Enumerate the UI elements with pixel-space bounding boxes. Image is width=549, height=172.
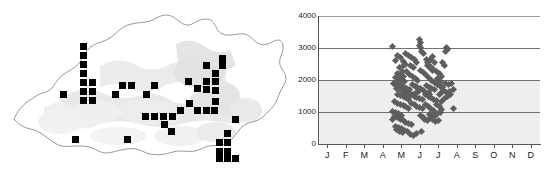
y-tick-label: 2000 [290, 76, 316, 84]
scatter-datapoint [441, 62, 448, 69]
plot-area [318, 16, 540, 144]
y-tick-label: 1000 [290, 108, 316, 116]
map-record-marker [161, 121, 168, 128]
map-record-marker [119, 82, 126, 89]
x-tick [383, 144, 384, 148]
map-record-marker [186, 100, 193, 107]
x-tick-label: M [394, 150, 408, 160]
map-record-marker [168, 128, 175, 135]
map-outline-svg [0, 0, 290, 172]
map-record-marker [212, 70, 219, 77]
x-tick-label: D [524, 150, 538, 160]
x-tick-label: J [320, 150, 334, 160]
x-tick [457, 144, 458, 148]
map-record-marker [80, 52, 87, 59]
y-tick-label: 3000 [290, 44, 316, 52]
x-tick [438, 144, 439, 148]
map-record-marker [160, 113, 167, 120]
x-tick-label: J [431, 150, 445, 160]
map-record-marker [212, 98, 219, 105]
distribution-map-panel [0, 0, 290, 172]
map-record-marker [212, 87, 219, 94]
map-record-marker [143, 91, 150, 98]
altitude-month-scatter-panel: 01000200030004000 JFMAMJJASOND [290, 0, 549, 172]
map-record-marker [89, 97, 96, 104]
y-axis-tick-labels: 01000200030004000 [290, 0, 316, 172]
figure-container: 01000200030004000 JFMAMJJASOND [0, 0, 549, 172]
map-record-marker [203, 107, 210, 114]
map-record-marker [169, 113, 176, 120]
y-axis-line [318, 16, 319, 145]
map-record-marker [203, 78, 210, 85]
map-record-marker [224, 155, 231, 162]
gridline [318, 16, 540, 17]
map-record-marker [203, 86, 210, 93]
map-record-marker [60, 91, 67, 98]
map-record-marker [219, 55, 226, 62]
map-record-marker [112, 91, 119, 98]
map-record-marker [80, 79, 87, 86]
map-record-marker [216, 155, 223, 162]
x-tick [494, 144, 495, 148]
map-record-marker [224, 130, 231, 137]
x-tick-label: S [468, 150, 482, 160]
map-record-marker [142, 113, 149, 120]
x-tick [401, 144, 402, 148]
x-tick-label: M [357, 150, 371, 160]
x-tick [420, 144, 421, 148]
map-record-marker [224, 139, 231, 146]
x-tick-label: A [450, 150, 464, 160]
x-tick-label: O [487, 150, 501, 160]
map-record-marker [80, 88, 87, 95]
map-record-marker [219, 62, 226, 69]
map-record-marker [185, 78, 192, 85]
x-tick [364, 144, 365, 148]
map-record-marker [216, 139, 223, 146]
map-record-marker [80, 43, 87, 50]
x-tick [512, 144, 513, 148]
map-record-marker [128, 82, 135, 89]
x-tick [475, 144, 476, 148]
x-tick [327, 144, 328, 148]
x-tick-label: N [505, 150, 519, 160]
x-axis-line [318, 144, 541, 145]
x-tick-label: F [339, 150, 353, 160]
gridline [318, 48, 540, 49]
x-tick-label: J [413, 150, 427, 160]
map-record-marker [177, 107, 184, 114]
y-tick-label: 0 [290, 140, 316, 148]
map-record-marker [232, 155, 239, 162]
map-record-marker [203, 62, 210, 69]
map-record-marker [232, 116, 239, 123]
map-record-marker [194, 107, 201, 114]
map-record-marker [72, 136, 79, 143]
map-record-marker [80, 61, 87, 68]
map-record-marker [212, 78, 219, 85]
x-tick [531, 144, 532, 148]
map-record-marker [151, 82, 158, 89]
map-record-marker [194, 85, 201, 92]
map-record-marker [151, 113, 158, 120]
map-record-marker [80, 97, 87, 104]
y-tick-label: 4000 [290, 12, 316, 20]
map-record-marker [124, 136, 131, 143]
x-tick [346, 144, 347, 148]
scatter-datapoint [438, 73, 445, 80]
map-record-marker [216, 148, 223, 155]
map-record-marker [89, 88, 96, 95]
map-record-marker [89, 79, 96, 86]
map-record-marker [224, 148, 231, 155]
map-record-marker [80, 70, 87, 77]
x-tick-label: A [376, 150, 390, 160]
map-record-marker [211, 107, 218, 114]
